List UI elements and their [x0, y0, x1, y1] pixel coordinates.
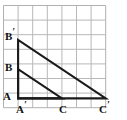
- triangle-A-prime-B-prime-C-prime: [18, 40, 106, 98]
- vertex-label-text: A: [3, 90, 11, 102]
- vertex-label-text: B: [5, 61, 12, 73]
- prime-mark: ′: [12, 26, 15, 37]
- vertex-label-text: A: [16, 103, 24, 115]
- vertex-label-c: C: [59, 104, 67, 115]
- vertex-label-text: C: [99, 103, 107, 115]
- prime-mark: ′: [24, 99, 27, 110]
- geometry-diagram-screenshot: B′BAA′CC′: [0, 0, 127, 120]
- vertex-label-a-prime: A′: [16, 104, 27, 115]
- vertex-label-b-prime: B′: [5, 31, 15, 42]
- vertex-label-a: A: [3, 91, 11, 102]
- vertex-label-text: C: [59, 103, 67, 115]
- prime-mark: ′: [107, 99, 110, 110]
- vertex-label-c-prime: C′: [99, 104, 110, 115]
- triangle-ABC: [18, 69, 62, 98]
- vertex-label-b: B: [5, 62, 12, 73]
